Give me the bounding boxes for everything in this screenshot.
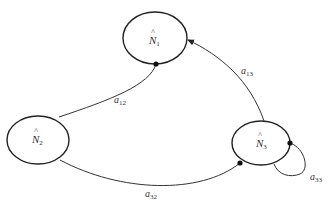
edge-a33-label: a33 bbox=[310, 171, 323, 184]
diagram-canvas: N1 ^ N2 ^ N3 ^ a12 a13 a32 a33 bbox=[0, 0, 334, 211]
edge-a12: a12 bbox=[59, 61, 159, 117]
edge-a13: a13 bbox=[188, 40, 264, 121]
edge-a12-label: a12 bbox=[114, 94, 127, 107]
edge-a13-label: a13 bbox=[241, 65, 254, 78]
edge-a33: a33 bbox=[274, 140, 323, 184]
node-n2: N2 ^ bbox=[7, 116, 69, 164]
node-n3: N3 ^ bbox=[232, 121, 290, 165]
edge-a32: a32 bbox=[60, 160, 243, 201]
edge-a32-label: a32 bbox=[145, 188, 158, 201]
node-n1: N1 ^ bbox=[123, 12, 187, 64]
